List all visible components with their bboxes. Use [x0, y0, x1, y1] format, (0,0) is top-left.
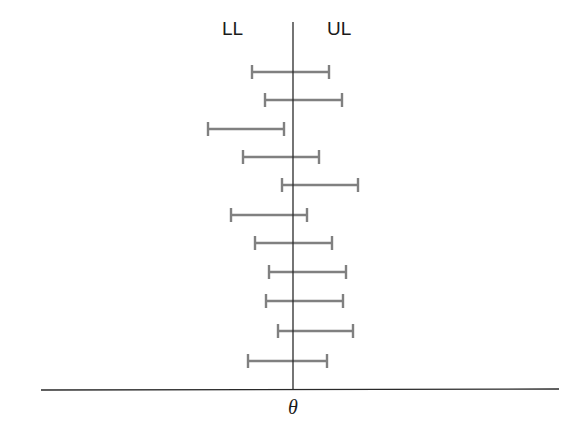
confidence-interval — [208, 122, 284, 136]
interval-group — [208, 65, 358, 368]
confidence-interval — [243, 150, 319, 164]
lower-limit-label: LL — [222, 18, 243, 39]
confidence-interval — [269, 265, 346, 279]
theta-label: θ — [288, 396, 298, 418]
confidence-interval — [265, 93, 342, 107]
upper-limit-label: UL — [327, 18, 351, 39]
horizontal-axis — [41, 389, 559, 390]
confidence-interval — [231, 208, 307, 222]
confidence-interval — [266, 294, 343, 308]
confidence-interval — [248, 354, 327, 368]
confidence-interval-diagram: LL UL θ — [0, 0, 587, 435]
confidence-interval — [252, 65, 329, 79]
confidence-interval — [278, 324, 353, 338]
